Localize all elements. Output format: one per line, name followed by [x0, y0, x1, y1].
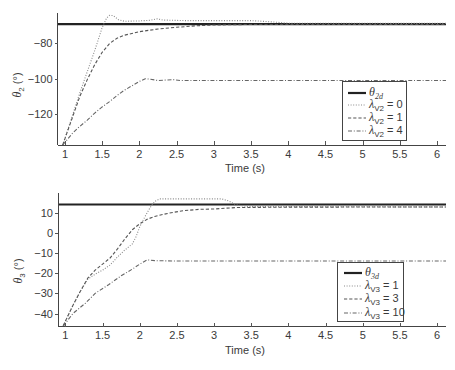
y-tick-label: −40 [34, 308, 53, 319]
x-tick-label: 2.5 [169, 330, 184, 341]
x-tick-label: 4 [285, 330, 291, 341]
y-tick-label: 10 [41, 207, 53, 218]
y-axis-subscript: 3 [18, 273, 27, 277]
y-tick-label: −30 [34, 288, 53, 299]
x-tick-label: 2 [137, 330, 143, 341]
x-tick-label: 5.5 [392, 330, 407, 341]
figure: 11.522.533.544.555.56−120−100−80 θ2 (°) … [0, 0, 455, 370]
legend-entry: λV3 = 10 [338, 307, 403, 319]
x-tick-label: 4.5 [318, 330, 333, 341]
legend-entry: λV3 = 3 [338, 293, 403, 305]
y-axis-unit: (°) [12, 258, 24, 270]
x-tick-label: 3 [211, 330, 217, 341]
dotted-line-icon [344, 280, 362, 292]
legend-label: λV3 = 10 [365, 306, 405, 323]
x-tick-label: 5 [360, 330, 366, 341]
x-tick-label: 3.5 [244, 330, 259, 341]
y-tick-label: −20 [34, 268, 53, 279]
solid-line-icon [344, 267, 362, 279]
y-tick-label: −10 [34, 247, 53, 258]
x-tick-label: 1.5 [95, 330, 110, 341]
legend-entry: θ3d [338, 267, 403, 279]
plot-theta3: 11.522.533.544.555.56−40−30−20−10010 θ3 … [0, 0, 455, 370]
x-tick-label: 1 [62, 330, 68, 341]
x-tick-label: 6 [434, 330, 440, 341]
dashdot-line-icon [344, 307, 362, 319]
y-tick-label: 0 [47, 227, 53, 238]
dashed-line-icon [344, 293, 362, 305]
legend-entry: λV3 = 1 [338, 280, 403, 292]
y-axis-symbol: θ [11, 278, 25, 284]
x-axis-label: Time (s) [225, 345, 265, 356]
legend: θ3d λV3 = 1 λV3 = 3 λV3 = 10 [337, 262, 404, 322]
y-axis-label: θ3 (°) [13, 258, 28, 283]
